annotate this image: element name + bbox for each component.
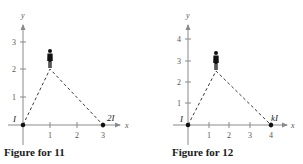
point-kI bbox=[269, 123, 274, 128]
point-label: kI bbox=[271, 113, 279, 123]
y-tick-label: 3 bbox=[12, 38, 16, 47]
y-tick-label: 4 bbox=[177, 35, 181, 44]
x-axis-label: x bbox=[290, 121, 295, 130]
figures-canvas: y x 1 2 3 1 2 3 I 2I y x 1 2 bbox=[0, 0, 303, 164]
x-axis-label: x bbox=[124, 121, 129, 130]
y-tick-label: 2 bbox=[177, 78, 181, 87]
person-icon bbox=[47, 49, 53, 68]
x-tick-label: 4 bbox=[269, 131, 273, 140]
y-tick-label: 1 bbox=[177, 99, 181, 108]
person-icon bbox=[213, 51, 219, 70]
y-tick-label: 1 bbox=[12, 93, 16, 102]
figure-12-caption: Figure for 12 bbox=[172, 146, 233, 158]
x-tick-label: 1 bbox=[207, 131, 211, 140]
x-tick-label: 3 bbox=[248, 131, 252, 140]
point-I bbox=[186, 123, 191, 128]
point-label: I bbox=[179, 114, 184, 124]
point-label: I bbox=[12, 114, 17, 124]
point-I bbox=[21, 123, 26, 128]
x-tick-label: 3 bbox=[101, 131, 105, 140]
figure-11-caption: Figure for 11 bbox=[4, 146, 65, 158]
x-tick-label: 1 bbox=[48, 131, 52, 140]
figure-11: y x 1 2 3 1 2 3 I 2I bbox=[8, 11, 129, 145]
point-label: 2I bbox=[107, 113, 116, 123]
figure-12: y x 1 2 3 4 1 2 3 4 I kI bbox=[173, 11, 295, 145]
y-axis-label: y bbox=[185, 11, 190, 20]
sight-lines bbox=[23, 69, 103, 125]
sight-lines bbox=[188, 71, 271, 125]
x-tick-label: 2 bbox=[75, 131, 79, 140]
point-2I bbox=[101, 123, 106, 128]
y-axis-label: y bbox=[20, 11, 25, 20]
y-tick-label: 3 bbox=[177, 57, 181, 66]
x-tick-label: 2 bbox=[227, 131, 231, 140]
y-tick-label: 2 bbox=[12, 65, 16, 74]
